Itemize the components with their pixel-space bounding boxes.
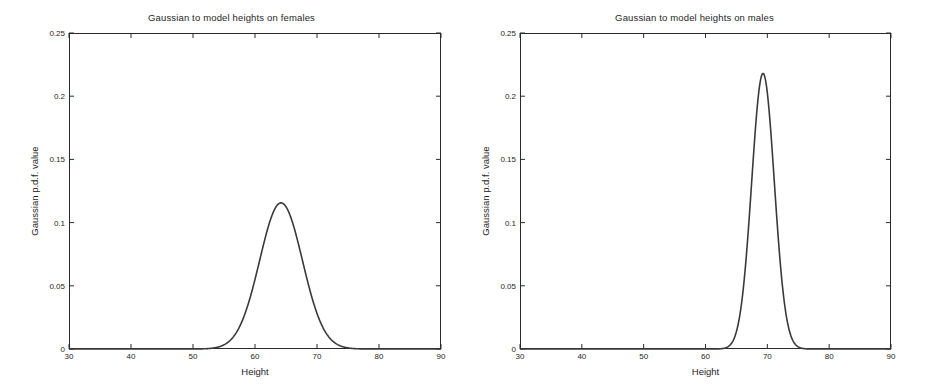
y-tick-label: 0.15 [49,155,65,164]
x-tick-label: 60 [251,352,260,361]
x-tick-label: 50 [639,352,648,361]
panel-title-males: Gaussian to model heights on males [463,12,926,23]
y-axis-label-females: Gaussian p.d.f. value [29,146,40,235]
x-tick-label: 90 [887,352,896,361]
y-tick-label: 0.05 [49,281,65,290]
y-axis-label-males: Gaussian p.d.f. value [480,146,491,235]
figure-canvas: Gaussian to model heights on females 304… [0,0,927,392]
panel-title-females: Gaussian to model heights on females [0,12,463,23]
x-tick-label: 40 [127,352,136,361]
y-tick-label: 0.15 [500,155,516,164]
plot-panel-males: Gaussian to model heights on males 30405… [463,0,926,392]
x-tick-label: 70 [313,352,322,361]
y-tick-label: 0.05 [500,281,516,290]
x-tick-label: 50 [189,352,198,361]
x-tick-label: 30 [516,352,525,361]
y-tick-label: 0.2 [505,92,516,101]
x-tick-label: 90 [437,352,446,361]
y-tick-label: 0.25 [49,29,65,38]
curve-canvas-females [69,33,441,349]
x-tick-label: 80 [375,352,384,361]
curve-canvas-males [520,33,891,349]
x-tick-label: 80 [825,352,834,361]
x-tick-label: 40 [577,352,586,361]
y-tick-label: 0 [512,345,516,354]
x-tick-label: 70 [763,352,772,361]
plot-panel-females: Gaussian to model heights on females 304… [0,0,463,392]
x-axis-label-males: Height [520,366,891,377]
plot-area-males: 30405060708090 00.050.10.150.20.25 [520,33,891,349]
x-tick-label: 60 [701,352,710,361]
plot-area-females: 30405060708090 00.050.10.150.20.25 [69,33,441,349]
x-tick-label: 30 [65,352,74,361]
y-tick-label: 0.1 [505,218,516,227]
gaussian-curve-males [520,73,891,349]
y-tick-label: 0 [61,345,65,354]
tick-marks-males [520,33,891,349]
x-axis-label-females: Height [69,366,441,377]
gaussian-curve-females [69,203,441,349]
y-tick-label: 0.25 [500,29,516,38]
y-tick-label: 0.2 [54,92,65,101]
y-tick-label: 0.1 [54,218,65,227]
tick-marks-females [69,33,441,349]
